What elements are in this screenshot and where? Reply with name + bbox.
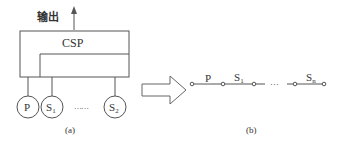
chain-node (252, 82, 256, 86)
nodes-ellipsis: …… (74, 101, 88, 112)
edge-sn-label: Sn (306, 72, 316, 87)
node-p-label: P (24, 102, 30, 113)
chain-node (221, 82, 225, 86)
transform-arrow-icon (142, 76, 186, 104)
chain-node (322, 82, 326, 86)
node-s2-label: S2 (109, 102, 119, 117)
output-label: 输出 (37, 12, 59, 23)
node-s1-label: S1 (46, 102, 56, 117)
csp-inner-line (40, 54, 129, 77)
csp-label: CSP (62, 38, 83, 49)
chain-node (190, 82, 194, 86)
chain-node (293, 82, 297, 86)
edge-p-label: P (205, 73, 211, 84)
caption-a: (a) (65, 125, 75, 136)
output-arrow-head-icon (71, 6, 77, 14)
chain-ellipsis: ··· (270, 79, 279, 90)
caption-b: (b) (246, 125, 257, 136)
edge-s1-label: S1 (234, 72, 244, 87)
